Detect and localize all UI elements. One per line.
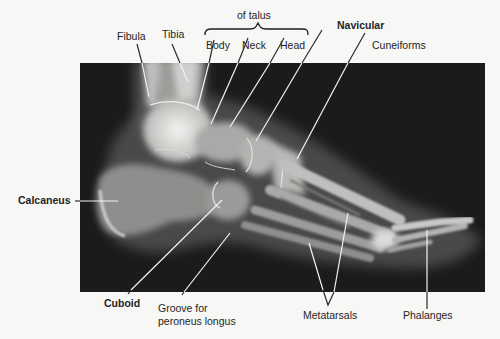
tibia-leader (172, 44, 180, 63)
label-head: Head (280, 39, 305, 51)
label-groove-line2: peroneus longus (158, 315, 236, 327)
label-navicular: Navicular (337, 19, 384, 31)
label-calcaneus: Calcaneus (18, 194, 71, 206)
label-fibula: Fibula (117, 30, 146, 42)
label-neck: Neck (242, 39, 266, 51)
label-cuboid: Cuboid (104, 297, 140, 309)
fibula-leader (137, 44, 142, 63)
label-phalanges: Phalanges (403, 309, 453, 321)
label-body: Body (206, 39, 230, 51)
label-tibia: Tibia (162, 28, 184, 40)
xray-image (80, 60, 485, 292)
label-cuneiforms: Cuneiforms (372, 39, 426, 51)
talus-caption: of talus (237, 9, 271, 21)
label-metatarsals: Metatarsals (303, 309, 357, 321)
talus-bracket (205, 23, 308, 35)
label-groove-line1: Groove for (158, 302, 208, 314)
cuneiforms-leader (348, 33, 365, 63)
